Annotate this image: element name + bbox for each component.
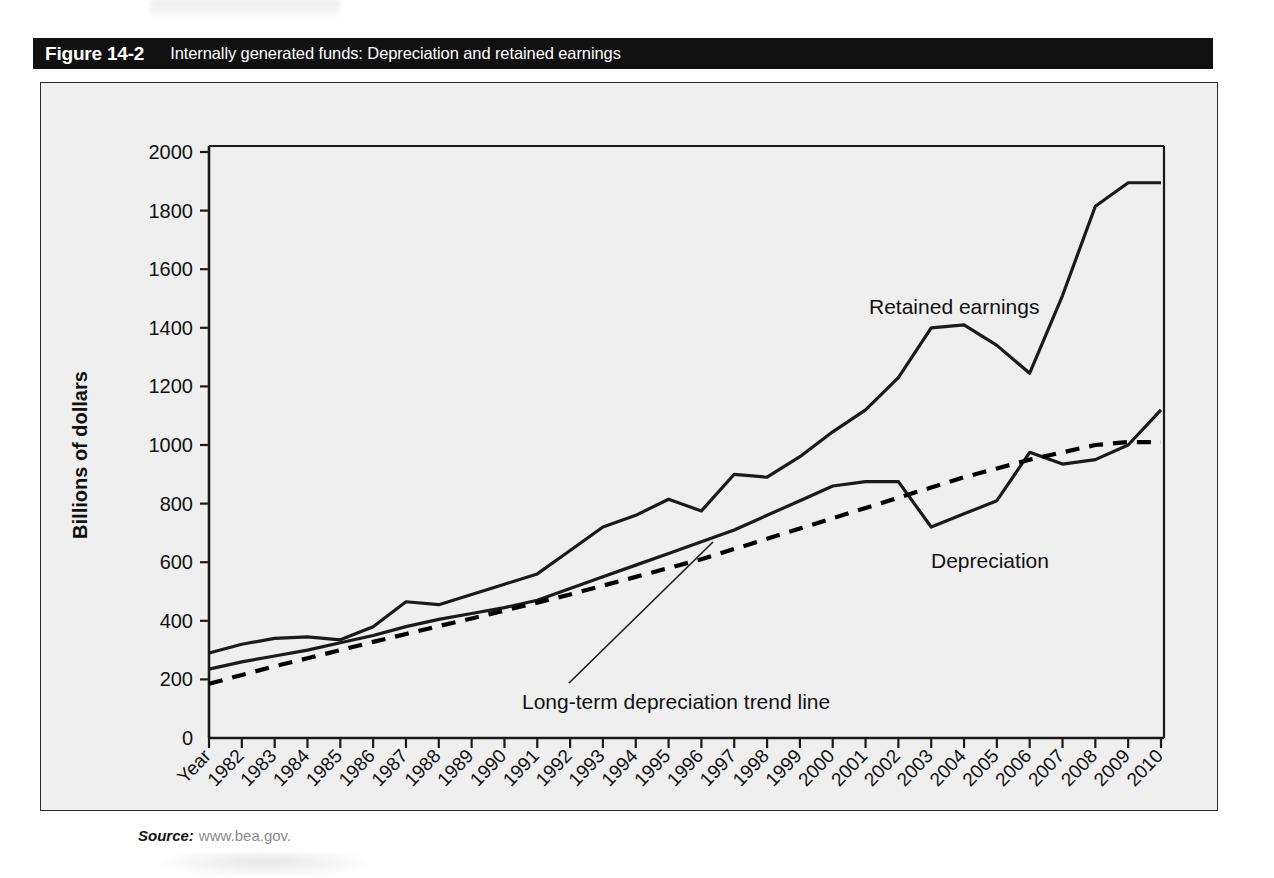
figure-container: Figure 14-2 Internally generated funds: … — [33, 38, 1229, 816]
x-tick-label: 2000 — [794, 745, 838, 790]
x-tick-label: 1984 — [269, 745, 314, 790]
x-tick-label: 2010 — [1122, 745, 1166, 790]
figure-title-banner: Figure 14-2 Internally generated funds: … — [33, 38, 1213, 69]
y-tick-label: 400 — [160, 610, 193, 632]
x-tick-label: 2001 — [827, 745, 871, 790]
x-tick-label: 2006 — [991, 745, 1035, 790]
x-tick-label: 1983 — [236, 745, 280, 790]
source-label: Source: — [138, 827, 194, 844]
x-tick-label: 1989 — [433, 745, 477, 790]
x-tick-label: 1993 — [564, 745, 608, 790]
chart-series-group — [209, 183, 1161, 684]
y-tick-label: 1600 — [149, 258, 194, 280]
y-tick-label: 1200 — [149, 375, 194, 397]
x-tick-label: 2004 — [925, 745, 970, 790]
chart-panel: 0200400600800100012001400160018002000Bil… — [40, 82, 1218, 811]
x-tick-label: 1982 — [203, 745, 247, 790]
x-tick-label: 1986 — [335, 745, 379, 790]
x-tick-label: 1991 — [499, 745, 543, 790]
x-tick-label: 1999 — [761, 745, 805, 790]
figure-number: Figure 14-2 — [45, 43, 144, 65]
x-tick-label: 1990 — [466, 745, 510, 790]
y-tick-label: 2000 — [149, 141, 194, 163]
x-tick-label: 1994 — [597, 745, 642, 790]
series-line — [209, 183, 1161, 653]
line-chart: 0200400600800100012001400160018002000Bil… — [41, 83, 1217, 810]
annotation-depreciation: Depreciation — [931, 549, 1049, 572]
series-line — [209, 410, 1161, 669]
x-tick-label: 1988 — [400, 745, 444, 790]
x-tick-label: 1997 — [696, 745, 740, 790]
y-tick-label: 1000 — [149, 434, 194, 456]
x-tick-label: 1995 — [630, 745, 674, 790]
source-note: Source:www.bea.gov. — [138, 827, 291, 844]
x-tick-label: 2003 — [893, 745, 937, 790]
x-tick-label: 2009 — [1090, 745, 1134, 790]
y-tick-label: 600 — [160, 551, 193, 573]
chart-annotations: Retained earningsDepreciationLong-term d… — [522, 295, 1049, 713]
scan-artifact-bottom — [150, 852, 380, 878]
x-tick-label: 1998 — [728, 745, 772, 790]
y-tick-label: 1400 — [149, 317, 194, 339]
x-tick-label: 2008 — [1057, 745, 1101, 790]
annotation-retained-earnings: Retained earnings — [869, 295, 1039, 318]
x-tick-label: 1987 — [367, 745, 411, 790]
y-tick-label: 200 — [160, 668, 193, 690]
x-tick-label: 1996 — [663, 745, 707, 790]
y-tick-label: 0 — [182, 727, 193, 749]
scan-artifact-top — [150, 0, 340, 20]
x-tick-label: 2007 — [1024, 745, 1068, 790]
y-tick-label: 1800 — [149, 200, 194, 222]
x-tick-label: 1992 — [532, 745, 576, 790]
y-axis-title: Billions of dollars — [69, 371, 91, 539]
y-tick-label: 800 — [160, 493, 193, 515]
x-tick-label: 2002 — [860, 745, 904, 790]
figure-title: Internally generated funds: Depreciation… — [170, 44, 621, 63]
source-url: www.bea.gov. — [199, 827, 291, 844]
annotation-trend-line: Long-term depreciation trend line — [522, 690, 830, 713]
x-tick-label: 2005 — [958, 745, 1002, 790]
x-tick-label: 1985 — [302, 745, 346, 790]
